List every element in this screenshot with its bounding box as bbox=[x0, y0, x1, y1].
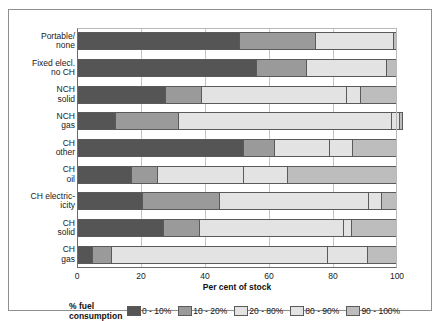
bar-segment[interactable] bbox=[77, 86, 165, 104]
bar-segment[interactable] bbox=[399, 112, 404, 130]
bar-segment[interactable] bbox=[360, 86, 397, 104]
y-axis-tick-line: gas bbox=[9, 255, 75, 265]
legend-item[interactable]: 90 - 100% bbox=[346, 306, 400, 316]
bar-row[interactable] bbox=[77, 219, 397, 237]
y-axis-tick-label: CHoil bbox=[9, 165, 75, 184]
bar-segment[interactable] bbox=[315, 32, 393, 50]
y-axis-tick-label: CHsolid bbox=[9, 219, 75, 238]
bar-segment[interactable] bbox=[343, 219, 351, 237]
y-axis-tick-label: Portable/none bbox=[9, 32, 75, 51]
bar-segment[interactable] bbox=[77, 139, 243, 157]
y-axis-tick-line: solid bbox=[9, 228, 75, 238]
bar-segment[interactable] bbox=[77, 192, 142, 210]
bar-segment[interactable] bbox=[274, 139, 329, 157]
bar-segment[interactable] bbox=[391, 112, 399, 130]
legend-item[interactable]: 0 - 10% bbox=[127, 306, 171, 316]
x-axis-tick-label: 80 bbox=[328, 271, 337, 281]
bar-segment[interactable] bbox=[393, 32, 397, 50]
y-axis-tick-line: none bbox=[9, 41, 75, 51]
bar-segment[interactable] bbox=[219, 192, 368, 210]
chart-frame: Portable/noneFixed elecl.no CHNCHsolidNC… bbox=[8, 9, 432, 311]
bar-row[interactable] bbox=[77, 246, 397, 264]
bar-segment[interactable] bbox=[306, 59, 386, 77]
legend-label: 10 - 20% bbox=[193, 306, 227, 316]
bar-segment[interactable] bbox=[157, 166, 243, 184]
legend-item[interactable]: 80 - 90% bbox=[290, 306, 339, 316]
bar-segment[interactable] bbox=[77, 166, 131, 184]
x-axis-tick-label: 60 bbox=[264, 271, 273, 281]
y-axis-tick-label: CH electric-icity bbox=[9, 192, 75, 211]
legend-title-line: consumption bbox=[69, 311, 127, 321]
bar-segment[interactable] bbox=[381, 192, 397, 210]
legend-title: % fuelconsumption bbox=[69, 301, 127, 321]
bar-row[interactable] bbox=[77, 166, 397, 184]
bar-segment[interactable] bbox=[239, 32, 315, 50]
bar-segment[interactable] bbox=[243, 166, 287, 184]
legend-swatch bbox=[234, 306, 248, 316]
y-axis-labels: Portable/noneFixed elecl.no CHNCHsolidNC… bbox=[9, 28, 75, 268]
bar-segment[interactable] bbox=[368, 192, 381, 210]
bar-segment[interactable] bbox=[115, 112, 177, 130]
bar-row[interactable] bbox=[77, 86, 397, 104]
bar-segment[interactable] bbox=[352, 139, 397, 157]
y-axis-tick-line: solid bbox=[9, 95, 75, 105]
bar-segment[interactable] bbox=[111, 246, 327, 264]
legend-label: 80 - 90% bbox=[305, 306, 339, 316]
bar-row[interactable] bbox=[77, 192, 397, 210]
bar-segment[interactable] bbox=[329, 139, 352, 157]
legend-label: 20 - 80% bbox=[249, 306, 283, 316]
y-axis-tick-label: NCHsolid bbox=[9, 85, 75, 104]
bar-segment[interactable] bbox=[165, 86, 201, 104]
bar-segment[interactable] bbox=[77, 112, 115, 130]
bar-segment[interactable] bbox=[77, 32, 239, 50]
x-axis-tick-label: 20 bbox=[136, 271, 145, 281]
bar-segment[interactable] bbox=[92, 246, 111, 264]
bar-segment[interactable] bbox=[287, 166, 397, 184]
x-axis-tick-label: 100 bbox=[390, 271, 404, 281]
y-axis-tick-line: no CH bbox=[9, 68, 75, 78]
legend: % fuelconsumption 0 - 10%10 - 20%20 - 80… bbox=[69, 298, 429, 321]
bar-segment[interactable] bbox=[243, 139, 273, 157]
y-axis-tick-line: oil bbox=[9, 175, 75, 185]
y-axis-tick-line: gas bbox=[9, 121, 75, 131]
bar-segment[interactable] bbox=[131, 166, 157, 184]
bar-segment[interactable] bbox=[178, 112, 391, 130]
bar-segment[interactable] bbox=[386, 59, 397, 77]
y-axis-tick-label: CHother bbox=[9, 139, 75, 158]
bar-segment[interactable] bbox=[256, 59, 306, 77]
bar-row[interactable] bbox=[77, 112, 397, 130]
bar-segment[interactable] bbox=[163, 219, 198, 237]
bar-row[interactable] bbox=[77, 139, 397, 157]
y-axis-tick-line: CH bbox=[9, 165, 75, 175]
y-axis-tick-label: Fixed elecl.no CH bbox=[9, 59, 75, 78]
legend-items: 0 - 10%10 - 20%20 - 80%80 - 90%90 - 100% bbox=[127, 306, 407, 316]
bar-row[interactable] bbox=[77, 59, 397, 77]
bar-segment[interactable] bbox=[77, 219, 163, 237]
bar-segment[interactable] bbox=[351, 219, 397, 237]
x-axis-title: Per cent of stock bbox=[77, 282, 397, 292]
bar-segment[interactable] bbox=[201, 86, 346, 104]
legend-label: 90 - 100% bbox=[361, 306, 400, 316]
y-axis-tick-label: NCHgas bbox=[9, 112, 75, 131]
bar-segment[interactable] bbox=[327, 246, 367, 264]
legend-swatch bbox=[127, 306, 141, 316]
legend-swatch bbox=[178, 306, 192, 316]
legend-swatch bbox=[290, 306, 304, 316]
x-axis-tick-label: 0 bbox=[75, 271, 80, 281]
bar-segment[interactable] bbox=[142, 192, 219, 210]
y-axis-tick-label: CHgas bbox=[9, 245, 75, 264]
legend-item[interactable]: 20 - 80% bbox=[234, 306, 283, 316]
y-axis-tick-line: other bbox=[9, 148, 75, 158]
bar-segment[interactable] bbox=[346, 86, 360, 104]
bar-segment[interactable] bbox=[77, 59, 256, 77]
legend-swatch bbox=[346, 306, 360, 316]
bar-segment[interactable] bbox=[199, 219, 343, 237]
legend-title-line: % fuel bbox=[69, 301, 127, 311]
bar-row[interactable] bbox=[77, 32, 397, 50]
legend-item[interactable]: 10 - 20% bbox=[178, 306, 227, 316]
y-axis-tick-line: icity bbox=[9, 201, 75, 211]
x-axis: 020406080100 bbox=[77, 269, 397, 283]
plot-area bbox=[77, 28, 397, 268]
bar-segment[interactable] bbox=[77, 246, 92, 264]
bar-segment[interactable] bbox=[367, 246, 397, 264]
